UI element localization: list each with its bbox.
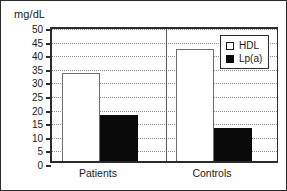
y-axis-tick-label: 30 bbox=[32, 78, 43, 89]
y-axis-tick-mark bbox=[46, 124, 51, 126]
filled-square-icon bbox=[226, 55, 234, 63]
y-axis-tick-label: 15 bbox=[32, 119, 43, 130]
y-axis-tick-label: 10 bbox=[32, 132, 43, 143]
legend-label: HDL bbox=[239, 40, 259, 51]
y-axis-tick-mark bbox=[46, 43, 51, 45]
y-axis-tick-mark bbox=[46, 111, 51, 113]
chart-legend: HDLLp(a) bbox=[220, 35, 269, 69]
legend-label: Lp(a) bbox=[239, 53, 262, 64]
y-axis-tick-mark bbox=[46, 151, 51, 153]
gridline bbox=[52, 29, 277, 30]
gridline bbox=[52, 70, 277, 71]
y-axis-unit-label: mg/dL bbox=[14, 8, 45, 20]
y-axis-tick-label: 35 bbox=[32, 64, 43, 75]
x-axis-label-patients: Patients bbox=[79, 167, 117, 179]
chart-figure: mg/dL 05101520253035404550 PatientsContr… bbox=[0, 0, 287, 191]
y-axis-tick-mark bbox=[46, 165, 51, 167]
bar-controls-lpa bbox=[214, 128, 252, 161]
y-axis-tick-mark bbox=[46, 83, 51, 85]
y-axis-tick-mark bbox=[46, 70, 51, 72]
y-axis-tick-label: 5 bbox=[37, 146, 43, 157]
y-axis-tick-label: 20 bbox=[32, 105, 43, 116]
open-square-icon bbox=[226, 42, 234, 50]
y-axis-tick-label: 0 bbox=[37, 160, 43, 171]
legend-item-lpa: Lp(a) bbox=[226, 52, 262, 65]
bar-patients-hdl bbox=[62, 73, 100, 161]
y-axis-tick-label: 40 bbox=[32, 51, 43, 62]
y-axis-tick-mark bbox=[46, 29, 51, 31]
x-axis-label-controls: Controls bbox=[192, 167, 231, 179]
bar-patients-lpa bbox=[100, 115, 138, 161]
y-axis-tick-label: 25 bbox=[32, 92, 43, 103]
y-axis-tick-mark bbox=[46, 56, 51, 58]
y-axis-tick-label: 45 bbox=[32, 37, 43, 48]
category-separator bbox=[166, 29, 167, 161]
y-axis-tick-label: 50 bbox=[32, 24, 43, 35]
legend-item-hdl: HDL bbox=[226, 39, 262, 52]
y-axis-tick-mark bbox=[46, 97, 51, 99]
bar-controls-hdl bbox=[176, 49, 214, 161]
y-axis-tick-mark bbox=[46, 138, 51, 140]
